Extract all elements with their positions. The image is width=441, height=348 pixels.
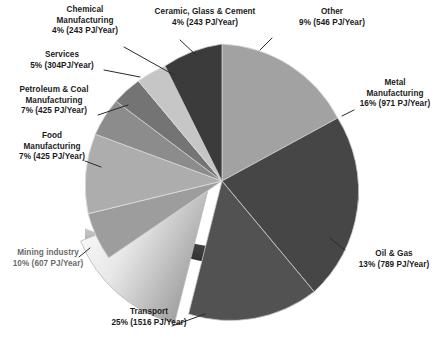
label-food-line1: Food: [4, 131, 100, 142]
label-petroleum-line1: Petroleum & Coal: [2, 85, 106, 96]
label-food-manufacturing: Food Manufacturing 7% (425 PJ/Year): [4, 131, 100, 163]
pie-chart-page: Chemical Manufacturing 4% (243 PJ/Year) …: [0, 0, 441, 348]
label-petroleum-line2: Manufacturing: [2, 96, 106, 107]
label-services-line2: 5% (304PJ/Year): [14, 61, 110, 72]
leader-line-chemical: [124, 47, 174, 75]
leader-line-ceramic: [180, 40, 196, 55]
pie-slices: [81, 44, 359, 323]
label-services-line1: Services: [14, 50, 110, 61]
label-chemical-line3: 4% (243 PJ/Year): [30, 26, 140, 37]
label-transport: Transport 25% (1516 PJ/Year): [94, 307, 204, 328]
label-metal-line2: Manufacturing: [350, 89, 440, 100]
label-oilgas-line2: 13% (789 PJ/Year): [348, 260, 440, 271]
label-transport-line1: Transport: [94, 307, 204, 318]
label-other-line2: 9% (546 PJ/Year): [272, 18, 392, 29]
label-other: Other 9% (546 PJ/Year): [272, 7, 392, 28]
label-chemical-manufacturing: Chemical Manufacturing 4% (243 PJ/Year): [30, 5, 140, 37]
label-chemical-line2: Manufacturing: [30, 16, 140, 27]
leader-line-metal: [342, 110, 354, 116]
leader-line-services: [104, 70, 140, 77]
leader-line-other: [260, 38, 272, 50]
label-ceramic-line2: 4% (243 PJ/Year): [135, 18, 275, 29]
label-oil-and-gas: Oil & Gas 13% (789 PJ/Year): [348, 249, 440, 270]
label-metal-manufacturing: Metal Manufacturing 16% (971 PJ/Year): [350, 78, 440, 110]
label-ceramic-glass-cement: Ceramic, Glass & Cement 4% (243 PJ/Year): [135, 7, 275, 28]
label-services: Services 5% (304PJ/Year): [14, 50, 110, 71]
label-petroleum-line3: 7% (425 PJ/Year): [2, 106, 106, 117]
label-transport-line2: 25% (1516 PJ/Year): [94, 318, 204, 329]
label-chemical-line1: Chemical: [30, 5, 140, 16]
label-metal-line3: 16% (971 PJ/Year): [350, 99, 440, 110]
label-mining-industry: Mining industry 10% (607 PJ/Year): [0, 248, 96, 269]
label-metal-line1: Metal: [350, 78, 440, 89]
label-mining-line2: 10% (607 PJ/Year): [0, 259, 96, 270]
label-food-line3: 7% (425 PJ/Year): [4, 152, 100, 163]
label-petroleum-coal-manufacturing: Petroleum & Coal Manufacturing 7% (425 P…: [2, 85, 106, 117]
label-oilgas-line1: Oil & Gas: [348, 249, 440, 260]
label-ceramic-line1: Ceramic, Glass & Cement: [135, 7, 275, 18]
label-other-line1: Other: [272, 7, 392, 18]
label-food-line2: Manufacturing: [4, 142, 100, 153]
label-mining-line1: Mining industry: [0, 248, 96, 259]
